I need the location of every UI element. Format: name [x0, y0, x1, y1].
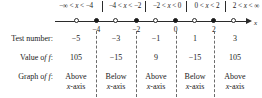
cell-graph-of-f-1-line2: x-axis	[106, 82, 127, 92]
column-divider-2	[176, 31, 178, 97]
interval-label-2: −2 < x < 0	[147, 1, 187, 12]
interval-label-row: −∞ < x < −4 −4 < x < −2 −2 < x < 0 0 < x…	[50, 1, 262, 13]
test-point-marker-1	[113, 18, 118, 23]
boundary-marker-3	[211, 18, 216, 23]
interval-separator-2	[186, 1, 187, 12]
boundary-marker-2	[173, 18, 178, 23]
cell-value-of-f-4: 105	[229, 53, 241, 63]
cell-graph-of-f-4: Above x-axis	[224, 72, 245, 92]
cell-value-of-f-2: 9	[154, 53, 158, 63]
cell-graph-of-f-2-line1: Above	[145, 72, 166, 82]
cell-test-number-3: 1	[193, 34, 197, 44]
interval-separator-0	[102, 1, 103, 12]
boundary-marker-1	[134, 18, 139, 23]
cell-value-of-f-1: −15	[110, 53, 123, 63]
axis-label-x: x	[254, 19, 257, 27]
cell-test-number-1: −3	[112, 34, 121, 44]
number-line-axis	[55, 21, 248, 22]
sign-chart-table: Test number: Value of f: Graph of f: −5 …	[0, 31, 262, 97]
cell-graph-of-f-0: Above x-axis	[65, 72, 86, 92]
cell-value-of-f-3: −15	[189, 53, 202, 63]
cell-graph-of-f-4-line1: Above	[224, 72, 245, 82]
interval-label-4: 2 < x < ∞	[227, 1, 262, 12]
cell-graph-of-f-0-line1: Above	[65, 72, 86, 82]
cell-test-number-2: −1	[152, 34, 161, 44]
cell-graph-of-f-3-line2: x-axis	[185, 82, 206, 92]
row-label-test-number: Test number:	[0, 34, 53, 44]
cell-graph-of-f-4-line2: x-axis	[224, 82, 245, 92]
test-point-marker-2	[153, 18, 158, 23]
cell-graph-of-f-3-line1: Below	[185, 72, 206, 82]
cell-graph-of-f-3: Below x-axis	[185, 72, 206, 92]
row-label-value-of-f: Value of f:	[0, 53, 53, 63]
interval-label-1: −4 < x < −2	[104, 1, 146, 12]
column-divider-1	[136, 31, 138, 97]
test-point-marker-0	[74, 18, 79, 23]
cell-graph-of-f-2: Above x-axis	[145, 72, 166, 92]
test-point-marker-3	[192, 18, 197, 23]
sign-chart-figure: −∞ < x < −4 −4 < x < −2 −2 < x < 0 0 < x…	[0, 0, 262, 98]
boundary-marker-0	[94, 18, 99, 23]
interval-separator-3	[225, 1, 226, 12]
axis-arrow-icon	[246, 18, 252, 24]
column-divider-3	[214, 31, 216, 97]
cell-test-number-0: −5	[72, 34, 81, 44]
interval-label-0: −∞ < x < −4	[50, 1, 102, 12]
interval-label-3: 0 < x < 2	[189, 1, 225, 12]
test-point-marker-4	[231, 18, 236, 23]
row-label-graph-of-f: Graph of f:	[0, 72, 53, 82]
cell-graph-of-f-2-line2: x-axis	[145, 82, 166, 92]
column-divider-0	[96, 31, 98, 97]
cell-test-number-4: 3	[233, 34, 237, 44]
cell-graph-of-f-1: Below x-axis	[106, 72, 127, 92]
cell-graph-of-f-1-line1: Below	[106, 72, 127, 82]
interval-separator-1	[145, 1, 146, 12]
cell-graph-of-f-0-line2: x-axis	[65, 82, 86, 92]
cell-value-of-f-0: 105	[70, 53, 82, 63]
number-line: x −4 −2 0 2	[55, 20, 251, 22]
